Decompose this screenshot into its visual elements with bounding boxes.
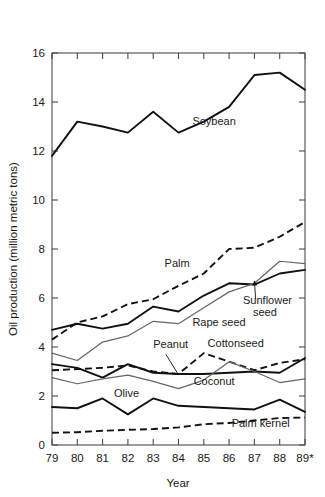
y-tick-label: 14 [32, 96, 45, 108]
y-axis-ticks-right [299, 53, 305, 445]
series-label-line: Sunflower [243, 294, 292, 306]
x-tick-label: 79 [46, 452, 59, 464]
x-tick-label: 82 [122, 452, 135, 464]
x-axis-tick-labels: 7980818283848586878889* [46, 452, 315, 464]
x-tick-label: 87 [248, 452, 261, 464]
series-label-palm-kernel: Palm kernel [232, 417, 290, 429]
series-labels-group: SoybeanPalmSunflowerseedRape seedCottons… [114, 115, 292, 429]
y-tick-label: 16 [32, 47, 45, 59]
annotation-leader-peanut [166, 354, 177, 372]
x-axis-title: Year [166, 477, 189, 489]
series-label-soybean: Soybean [192, 115, 235, 127]
x-axis-ticks [52, 439, 305, 445]
y-tick-label: 2 [39, 390, 45, 402]
series-label-olive: Olive [114, 387, 139, 399]
y-tick-label: 12 [32, 145, 45, 157]
series-label-peanut: Peanut [153, 338, 188, 350]
series-label-rape-seed: Rape seed [192, 316, 245, 328]
y-tick-label: 0 [39, 439, 45, 451]
y-tick-label: 4 [39, 341, 46, 353]
y-axis-tick-labels: 0246810121416 [32, 47, 45, 451]
series-line-palm [52, 222, 305, 340]
x-tick-label: 84 [172, 452, 185, 464]
x-axis-ticks-top [52, 53, 305, 59]
x-tick-label: 83 [147, 452, 160, 464]
x-tick-label: 80 [71, 452, 84, 464]
x-tick-label: 85 [197, 452, 210, 464]
x-tick-label: 89* [296, 452, 314, 464]
series-label-sunflower-seed: Sunflowerseed [243, 294, 292, 318]
series-label-coconut: Coconut [194, 375, 235, 387]
y-tick-label: 10 [32, 194, 45, 206]
x-tick-label: 86 [223, 452, 236, 464]
plot-frame [52, 53, 305, 445]
line-chart: 0246810121416 7980818283848586878889* So… [0, 0, 325, 497]
series-label-palm: Palm [165, 257, 190, 269]
series-label-cottonseed: Cottonseed [208, 337, 264, 349]
chart-container: 0246810121416 7980818283848586878889* So… [0, 0, 325, 497]
x-tick-label: 81 [96, 452, 109, 464]
series-line-olive [52, 398, 305, 414]
x-tick-label: 88 [273, 452, 286, 464]
y-axis-title: Oil production (million metric tons) [7, 162, 19, 336]
data-series-group [52, 73, 305, 433]
y-tick-label: 6 [39, 292, 45, 304]
y-tick-label: 8 [39, 243, 45, 255]
series-line-soybean [52, 73, 305, 156]
series-line-coconut [52, 362, 305, 389]
series-label-line: seed [253, 306, 277, 318]
y-axis-ticks [52, 53, 58, 445]
series-line-cottonseed [52, 353, 305, 374]
